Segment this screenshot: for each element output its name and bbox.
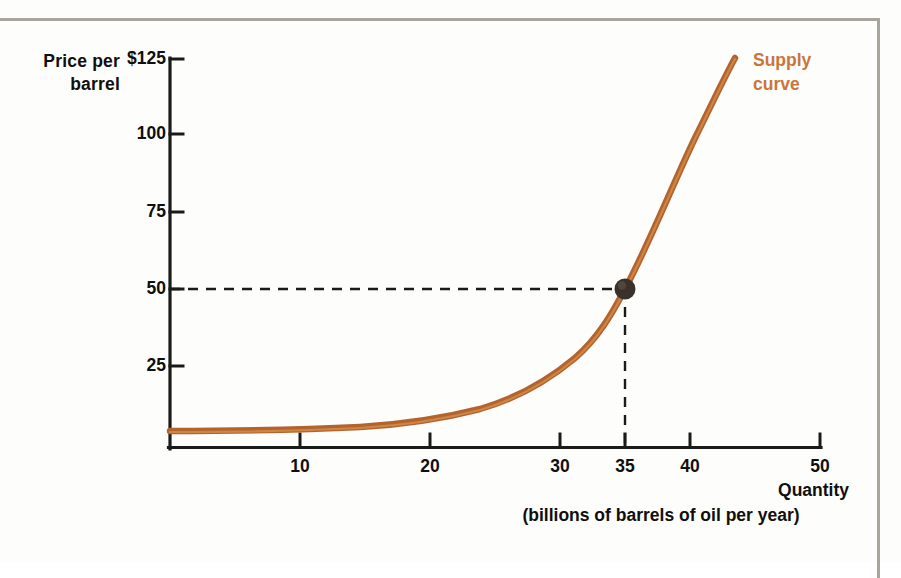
x-tick-label-50: 50 bbox=[797, 456, 843, 477]
supply-curve-label: Supply curve bbox=[753, 48, 811, 96]
y-tick-label-125: $125 bbox=[104, 48, 166, 69]
x-tick-label-30: 30 bbox=[537, 456, 583, 477]
y-axis-title-line2: barrel bbox=[8, 73, 120, 96]
x-axis-ticks bbox=[300, 434, 820, 447]
equilibrium-point-highlight bbox=[618, 281, 626, 289]
x-tick-label-20: 20 bbox=[407, 456, 453, 477]
supply-curve-label-line1: Supply bbox=[753, 48, 811, 72]
y-tick-label-25: 25 bbox=[104, 355, 166, 376]
x-tick-label-40: 40 bbox=[667, 456, 713, 477]
x-tick-label-10: 10 bbox=[277, 456, 323, 477]
y-axis-ticks bbox=[170, 59, 183, 366]
y-tick-label-50: 50 bbox=[104, 278, 166, 299]
x-axis-title: Quantity (billions of barrels of oil per… bbox=[455, 478, 867, 528]
supply-curve-highlight bbox=[170, 59, 735, 432]
equilibrium-point-marker[interactable] bbox=[615, 279, 636, 300]
y-tick-label-75: 75 bbox=[104, 201, 166, 222]
supply-curve-label-line2: curve bbox=[753, 72, 811, 96]
x-tick-label-35: 35 bbox=[602, 456, 648, 477]
supply-curve-path bbox=[170, 58, 735, 431]
x-axis-title-line1: Quantity bbox=[455, 478, 867, 503]
y-tick-label-100: 100 bbox=[104, 123, 166, 144]
x-axis-title-line2: (billions of barrels of oil per year) bbox=[455, 503, 867, 528]
